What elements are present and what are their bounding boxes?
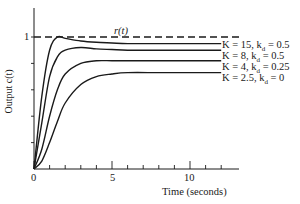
response-curve-3: [34, 73, 221, 169]
response-curve-2: [34, 61, 221, 169]
x-tick-label-10: 10: [184, 172, 195, 183]
x-ticks: [34, 161, 221, 169]
x-axis-label: Time (seconds): [162, 186, 227, 197]
reference-label: r(t): [114, 25, 128, 36]
response-curves: [34, 36, 221, 169]
legend-series-3: K = 2.5, kd = 0: [222, 72, 284, 88]
x-tick-label-0: 0: [31, 172, 36, 183]
x-tick-label-5: 5: [110, 172, 115, 183]
response-curve-0: [34, 36, 221, 169]
y-tick-label-1: 1: [24, 31, 29, 42]
y-axis-label: Output c(t): [3, 69, 14, 113]
step-response-chart: [0, 0, 300, 204]
